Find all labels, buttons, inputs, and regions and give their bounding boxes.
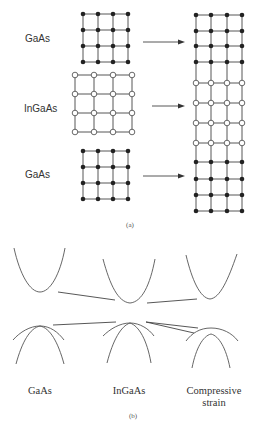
atom-open	[239, 100, 245, 106]
atom-open	[110, 72, 116, 78]
atom-filled	[209, 29, 214, 34]
atom-filled	[96, 60, 101, 65]
atom-filled	[240, 60, 245, 65]
atom-filled	[111, 197, 116, 202]
atom-filled	[111, 181, 116, 186]
label-gaas-bottom: GaAs	[25, 169, 50, 180]
atom-filled	[209, 209, 214, 214]
atom-open	[224, 120, 230, 126]
label-b-ingaas: InGaAs	[113, 385, 146, 396]
atom-filled	[111, 60, 116, 65]
atom-open	[91, 91, 97, 97]
atom-open	[91, 110, 97, 116]
valence-heavy-hole-strained	[192, 334, 230, 368]
atom-filled	[225, 177, 230, 182]
atom-filled	[225, 13, 230, 18]
atom-open	[72, 72, 78, 78]
caption-a: (a)	[126, 221, 134, 229]
atom-open	[239, 120, 245, 126]
atom-open	[129, 110, 135, 116]
atom-open	[208, 100, 214, 106]
atom-open	[129, 72, 135, 78]
atom-filled	[81, 44, 86, 49]
atom-open	[72, 129, 78, 135]
atom-filled	[96, 12, 101, 17]
atom-open	[224, 140, 230, 146]
atom-filled	[240, 177, 245, 182]
atom-filled	[81, 181, 86, 186]
atom-filled	[209, 13, 214, 18]
conduction-band-gaas	[14, 248, 65, 292]
atom-filled	[194, 177, 199, 182]
left-lattices	[72, 12, 135, 202]
label-gaas-top: GaAs	[25, 33, 50, 44]
atom-filled	[194, 193, 199, 198]
atom-filled	[96, 44, 101, 49]
atom-open	[193, 120, 199, 126]
atom-filled	[126, 181, 131, 186]
atom-filled	[81, 149, 86, 154]
lattice-ingaas-1	[72, 72, 135, 135]
atom-open	[208, 140, 214, 146]
vb-connector-2	[146, 322, 198, 328]
atom-filled	[96, 149, 101, 154]
atom-filled	[126, 149, 131, 154]
atom-filled	[111, 12, 116, 17]
atom-filled	[194, 29, 199, 34]
atom-filled	[209, 177, 214, 182]
conduction-band-ingaas	[103, 259, 155, 303]
arrowhead-icon	[178, 104, 185, 109]
atom-filled	[81, 12, 86, 17]
atom-open	[72, 91, 78, 97]
cb-connector-2	[147, 299, 197, 303]
atom-filled	[126, 44, 131, 49]
atom-open	[129, 129, 135, 135]
label-ingaas: InGaAs	[24, 103, 57, 114]
atom-filled	[225, 60, 230, 65]
atom-open	[239, 80, 245, 86]
atom-filled	[209, 193, 214, 198]
arrowhead-icon	[178, 40, 185, 45]
atom-open	[129, 91, 135, 97]
atom-open	[208, 120, 214, 126]
atom-filled	[194, 44, 199, 49]
atom-open	[208, 80, 214, 86]
valence-heavy-hole-ingaas	[107, 323, 151, 363]
atom-filled	[225, 29, 230, 34]
atom-filled	[209, 44, 214, 49]
vb-connector-3	[146, 322, 194, 333]
atom-open	[224, 80, 230, 86]
atom-open	[91, 72, 97, 78]
atom-filled	[96, 197, 101, 202]
valence-light-hole-gaas	[13, 326, 64, 340]
atom-filled	[209, 160, 214, 165]
atom-filled	[194, 160, 199, 165]
atom-filled	[240, 44, 245, 49]
atom-filled	[225, 193, 230, 198]
atom-filled	[81, 165, 86, 170]
cb-connector-1	[58, 292, 115, 300]
atom-open	[193, 80, 199, 86]
atom-open	[224, 100, 230, 106]
atom-filled	[194, 60, 199, 65]
atom-filled	[81, 60, 86, 65]
valence-heavy-hole-gaas	[16, 326, 64, 364]
arrows	[143, 40, 185, 179]
atom-open	[193, 140, 199, 146]
atom-filled	[240, 13, 245, 18]
atom-open	[110, 129, 116, 135]
valence-light-hole-ingaas	[103, 323, 154, 336]
strained-lattice-stack	[193, 13, 245, 214]
atom-filled	[96, 165, 101, 170]
panel-b: GaAs InGaAs Compressive strain (b)	[13, 248, 242, 420]
strain-band-diagram: GaAs InGaAs GaAs (a) GaAs InGaAs Compres…	[0, 0, 260, 433]
atom-open	[193, 100, 199, 106]
atom-filled	[126, 60, 131, 65]
atom-filled	[240, 29, 245, 34]
caption-b: (b)	[129, 412, 138, 420]
atom-filled	[81, 28, 86, 33]
atom-filled	[126, 12, 131, 17]
atom-filled	[225, 160, 230, 165]
atom-filled	[194, 209, 199, 214]
label-b-gaas: GaAs	[28, 385, 52, 396]
